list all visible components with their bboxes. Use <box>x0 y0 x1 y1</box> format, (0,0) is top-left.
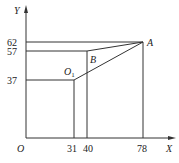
point-A-label: A <box>146 37 154 48</box>
point-B-label: B <box>90 54 96 65</box>
point-O1-label: O1 <box>64 66 75 79</box>
x-axis-arrow-icon <box>168 136 176 140</box>
x-tick-78: 78 <box>137 143 147 154</box>
y-tick-37: 37 <box>7 75 17 86</box>
y-tick-57: 57 <box>7 46 17 57</box>
origin-label: O <box>17 143 24 154</box>
coordinate-diagram: Y X O 62 57 37 31 40 78 A B O1 <box>0 0 179 163</box>
y-axis-label: Y <box>14 5 21 16</box>
x-tick-31: 31 <box>67 143 77 154</box>
x-tick-40: 40 <box>83 143 93 154</box>
x-axis-label: X <box>165 143 173 154</box>
y-axis-arrow-icon <box>24 5 28 13</box>
